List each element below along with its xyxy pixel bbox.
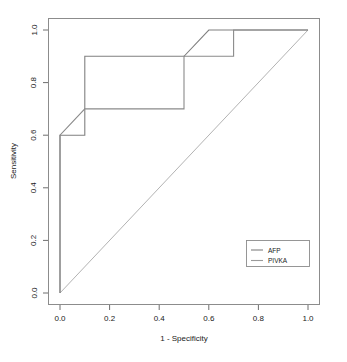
y-axis-label: Sensitivity [9, 143, 18, 179]
roc-chart-container: 0.00.20.40.60.81.0 0.00.20.40.60.81.0 1 … [0, 0, 347, 362]
y-tick-label: 1.0 [30, 24, 39, 36]
y-tick-label: 0.8 [30, 76, 39, 88]
x-tick-label: 0.4 [154, 314, 166, 323]
x-tick-label: 0.0 [54, 314, 66, 323]
x-axis-label: 1 - Specificity [160, 334, 208, 343]
x-tick-label: 0.2 [104, 314, 116, 323]
roc-curve-chart: 0.00.20.40.60.81.0 0.00.20.40.60.81.0 1 … [0, 0, 347, 362]
x-tick-label: 0.6 [203, 314, 215, 323]
x-tick-label: 1.0 [302, 314, 314, 323]
y-tick-label: 0.6 [30, 129, 39, 141]
x-tick-label: 0.8 [253, 314, 265, 323]
legend-label-afp: AFP [268, 247, 281, 254]
legend-label-pivka: PIVKA [268, 257, 288, 264]
y-tick-label: 0.4 [30, 182, 39, 194]
chart-background [0, 0, 347, 362]
chart-legend[interactable]: AFPPIVKA [247, 241, 310, 267]
y-tick-label: 0.0 [30, 287, 39, 299]
y-tick-label: 0.2 [30, 234, 39, 246]
